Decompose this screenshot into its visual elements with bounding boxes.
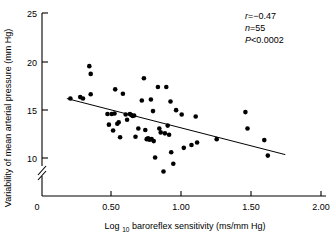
x-axis-title-main: Log xyxy=(105,221,120,231)
data-point xyxy=(189,143,194,148)
y-tick-label-25: 25 xyxy=(27,9,37,19)
data-point xyxy=(158,130,163,135)
data-point xyxy=(174,108,179,113)
data-point xyxy=(132,113,137,118)
data-point xyxy=(262,138,267,143)
data-point xyxy=(163,131,168,136)
data-point xyxy=(161,169,166,174)
data-point xyxy=(111,128,116,133)
n-statistic-value: =55 xyxy=(250,23,265,33)
data-point xyxy=(88,92,93,97)
x-axis-ticks xyxy=(111,191,321,196)
y-tick-label-0: 0 xyxy=(34,202,39,212)
r-statistic-value: =−0.47 xyxy=(248,11,276,21)
statistics-annotation: r=−0.47 n=55 P<0.0002 xyxy=(245,11,284,45)
data-point xyxy=(168,99,173,104)
data-point xyxy=(133,134,138,139)
r-statistic: r=−0.47 xyxy=(245,11,276,21)
data-point xyxy=(140,98,145,103)
data-point xyxy=(142,76,147,81)
data-point xyxy=(171,162,176,167)
data-point xyxy=(165,123,170,128)
data-point xyxy=(169,150,174,155)
chart-svg: 25 20 15 10 0 0.50 1.00 1.50 2.00 Log 10… xyxy=(0,0,336,236)
y-axis-ticks xyxy=(42,13,48,158)
data-point xyxy=(193,114,198,119)
data-point xyxy=(179,112,184,117)
data-point xyxy=(123,112,128,117)
scatter-plot-figure: 25 20 15 10 0 0.50 1.00 1.50 2.00 Log 10… xyxy=(0,0,336,236)
data-point xyxy=(68,96,73,101)
data-point xyxy=(136,126,141,131)
y-tick-label-10: 10 xyxy=(27,154,37,164)
data-point xyxy=(149,97,154,102)
y-axis-title: Variability of mean arterial pressure (m… xyxy=(3,29,13,207)
data-point xyxy=(125,118,130,123)
data-point xyxy=(88,72,93,77)
data-point xyxy=(153,155,158,160)
p-statistic-value: <0.0002 xyxy=(251,35,284,45)
data-point xyxy=(164,85,169,90)
data-point xyxy=(105,112,110,117)
data-point xyxy=(118,135,123,140)
x-axis-title: Log 10 baroreflex sensitivity (ms/mm Hg) xyxy=(105,221,266,234)
n-statistic: n=55 xyxy=(245,23,265,33)
data-point xyxy=(182,146,187,151)
data-point xyxy=(245,126,250,131)
data-point xyxy=(121,91,126,96)
data-point xyxy=(151,109,156,114)
data-point xyxy=(81,96,86,101)
x-tick-label-1.00: 1.00 xyxy=(172,202,190,212)
data-point xyxy=(113,87,118,92)
x-tick-label-0.50: 0.50 xyxy=(102,202,120,212)
data-point xyxy=(112,111,117,116)
y-tick-label-15: 15 xyxy=(27,106,37,116)
x-axis-title-rest: baroreflex sensitivity (ms/mm Hg) xyxy=(132,221,266,231)
x-tick-label-1.50: 1.50 xyxy=(242,202,260,212)
p-statistic: P<0.0002 xyxy=(245,35,284,45)
data-point xyxy=(87,64,92,69)
data-point xyxy=(266,153,271,158)
data-point xyxy=(151,139,156,144)
regression-line xyxy=(67,99,285,155)
data-point xyxy=(214,137,219,142)
data-point xyxy=(195,140,200,145)
data-point xyxy=(243,110,248,115)
data-point xyxy=(116,120,121,125)
data-point xyxy=(167,133,172,138)
y-tick-label-20: 20 xyxy=(27,58,37,68)
x-tick-label-2.00: 2.00 xyxy=(312,202,330,212)
data-point xyxy=(107,122,112,127)
data-point xyxy=(143,128,148,133)
data-point xyxy=(156,85,161,90)
x-axis-title-subscript: 10 xyxy=(122,226,130,233)
data-points-layer xyxy=(68,64,270,174)
